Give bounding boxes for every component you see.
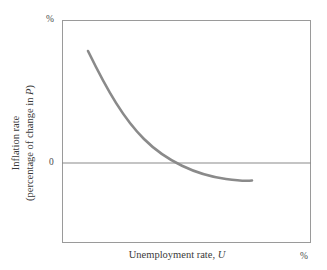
y-axis-title-line2-prefix: (percentage of change in [24,95,35,201]
plot-canvas [62,20,311,243]
phillips-curve-figure: % 0 % Unemployment rate, U Inflation rat… [0,0,327,270]
y-axis-title: Inflation rate (percentage of change in … [1,32,45,255]
y-axis-unit-label: % [46,15,54,25]
y-axis-title-line2-suffix: ) [24,85,35,89]
y-axis-title-line1: Inflation rate [9,116,23,171]
x-axis-title: Unemployment rate, U [62,250,292,261]
y-axis-title-line2-symbol: P [24,88,35,94]
x-axis-unit-label: % [300,252,308,262]
x-axis-title-symbol: U [218,249,226,260]
y-axis-zero-tick-label: 0 [49,158,54,168]
x-axis-title-text: Unemployment rate, [129,249,218,260]
y-axis-title-line2: (percentage of change in P) [23,85,37,201]
phillips-curve-path [88,51,252,181]
